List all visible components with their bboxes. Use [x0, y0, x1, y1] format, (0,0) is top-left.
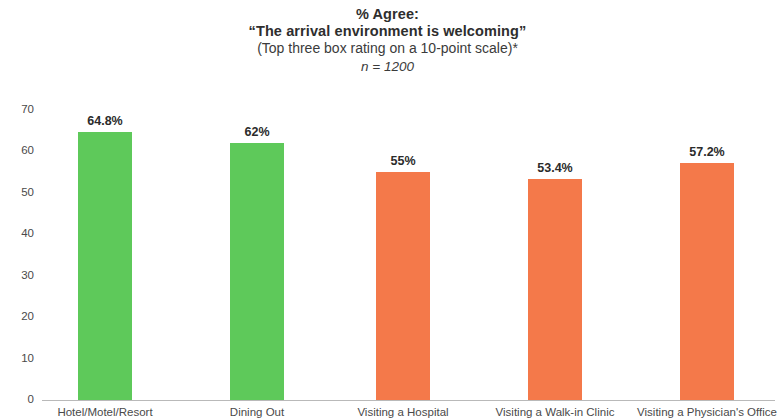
bar-group: 57.2%Visiting a Physician's Office — [680, 0, 734, 419]
bar-value-label: 62% — [216, 125, 298, 139]
bar-group: 55%Visiting a Hospital — [376, 0, 430, 419]
bar[interactable] — [376, 172, 430, 400]
y-axis-tick-label: 30 — [0, 270, 34, 281]
bar[interactable] — [78, 132, 132, 400]
y-axis-tick-label: 70 — [0, 104, 34, 115]
bar-value-label: 53.4% — [514, 161, 596, 175]
x-axis-category-label: Hotel/Motel/Resort — [18, 406, 192, 419]
bar[interactable] — [528, 179, 582, 400]
bar-group: 62%Dining Out — [230, 0, 284, 419]
bar-value-label: 57.2% — [666, 145, 748, 159]
x-axis-category-label: Visiting a Walk-in Clinic — [468, 406, 642, 419]
y-axis-tick-label: 20 — [0, 311, 34, 322]
y-axis-tick-label: 10 — [0, 353, 34, 364]
y-axis-tick-label: 0 — [0, 394, 34, 405]
bar[interactable] — [230, 143, 284, 400]
y-axis-tick-label: 50 — [0, 187, 34, 198]
y-axis-tick-label: 60 — [0, 145, 34, 156]
bar-value-label: 55% — [362, 154, 444, 168]
bar-group: 53.4%Visiting a Walk-in Clinic — [528, 0, 582, 419]
bar-value-label: 64.8% — [64, 114, 146, 128]
x-axis-category-label: Visiting a Hospital — [316, 406, 490, 419]
y-axis-tick-label: 40 — [0, 228, 34, 239]
bar-group: 64.8%Hotel/Motel/Resort — [78, 0, 132, 419]
bar[interactable] — [680, 163, 734, 400]
x-axis-category-label: Visiting a Physician's Office — [620, 406, 781, 419]
